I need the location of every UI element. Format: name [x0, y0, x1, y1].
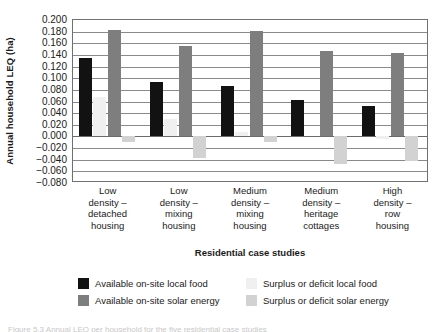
- legend-item: Available on-site solar energy: [78, 295, 246, 306]
- bar: [320, 51, 333, 136]
- y-axis-tick-label: 0.160: [42, 37, 67, 48]
- bar: [164, 119, 177, 136]
- x-axis-tick-labels: Lowdensity –detachedhousingLowdensity –m…: [72, 185, 428, 231]
- bar: [264, 136, 277, 142]
- bar: [291, 100, 304, 137]
- legend-swatch-icon: [78, 278, 89, 289]
- x-axis-tick-label: Mediumdensity –heritagecottages: [286, 185, 357, 231]
- bar: [376, 136, 389, 138]
- y-axis-tick-label: 0.020: [42, 118, 67, 129]
- chart-legend: Available on-site local foodSurplus or d…: [78, 275, 426, 309]
- y-axis-tick-label: 0.080: [42, 83, 67, 94]
- y-axis-tick-label: 0.060: [42, 95, 67, 106]
- bar: [362, 106, 375, 136]
- x-axis-title: Residential case studies: [72, 247, 428, 258]
- y-axis-tick-label: −0.080: [36, 177, 67, 188]
- y-axis-title-label: Annual household LEQ (ha): [4, 37, 15, 165]
- y-axis-tick-label: 0.040: [42, 107, 67, 118]
- bar: [79, 58, 92, 137]
- bar: [193, 136, 206, 158]
- bar: [179, 46, 192, 136]
- bar-group: [285, 20, 356, 181]
- figure-caption: Figure 5.3 Annual LEQ per household for …: [8, 325, 432, 332]
- y-axis-tick-label: 0.120: [42, 60, 67, 71]
- bar-group: [144, 20, 215, 181]
- y-axis-title: Annual household LEQ (ha): [0, 19, 18, 182]
- y-axis-tick-label: −0.040: [36, 153, 67, 164]
- bar: [93, 97, 106, 137]
- legend-item: Surplus or deficit local food: [246, 278, 426, 289]
- figure-container: Annual household LEQ (ha) 0.2000.1800.16…: [0, 0, 440, 332]
- legend-item: Available on-site local food: [78, 278, 246, 289]
- legend-item: Surplus or deficit solar energy: [246, 295, 426, 306]
- bar: [250, 31, 263, 136]
- x-axis-tick-label: Lowdensity –mixinghousing: [143, 185, 214, 231]
- y-axis-tick-label: −0.020: [36, 142, 67, 153]
- legend-label: Surplus or deficit local food: [263, 278, 377, 289]
- legend-swatch-icon: [78, 295, 89, 306]
- bar: [405, 136, 418, 161]
- bar: [334, 136, 347, 163]
- bar-group: [215, 20, 286, 181]
- bar: [150, 82, 163, 136]
- bar-group: [356, 20, 427, 181]
- bar: [235, 132, 248, 137]
- y-axis-tick-label: 0.200: [42, 14, 67, 25]
- y-axis-tick-label: 0.140: [42, 48, 67, 59]
- legend-swatch-icon: [246, 278, 257, 289]
- legend-label: Available on-site solar energy: [95, 295, 219, 306]
- bar: [221, 86, 234, 137]
- bar: [391, 53, 404, 136]
- legend-label: Surplus or deficit solar energy: [263, 295, 389, 306]
- bar-groups: [73, 20, 427, 181]
- x-axis-tick-label: Highdensity –rowhousing: [357, 185, 428, 231]
- bar-group: [73, 20, 144, 181]
- y-axis-tick-label: 0.100: [42, 72, 67, 83]
- x-axis-tick-label: Mediumdensity –mixinghousing: [214, 185, 285, 231]
- legend-swatch-icon: [246, 295, 257, 306]
- y-axis-tick-label: 0.000: [42, 130, 67, 141]
- legend-label: Available on-site local food: [95, 278, 208, 289]
- plot-area: [72, 19, 428, 182]
- y-axis-tick-label: 0.180: [42, 25, 67, 36]
- bar: [122, 136, 135, 142]
- y-axis-tick-label: −0.060: [36, 165, 67, 176]
- y-axis-tick-labels: 0.2000.1800.1600.1400.1200.1000.0800.060…: [18, 19, 70, 182]
- bar: [108, 30, 121, 136]
- x-axis-tick-label: Lowdensity –detachedhousing: [72, 185, 143, 231]
